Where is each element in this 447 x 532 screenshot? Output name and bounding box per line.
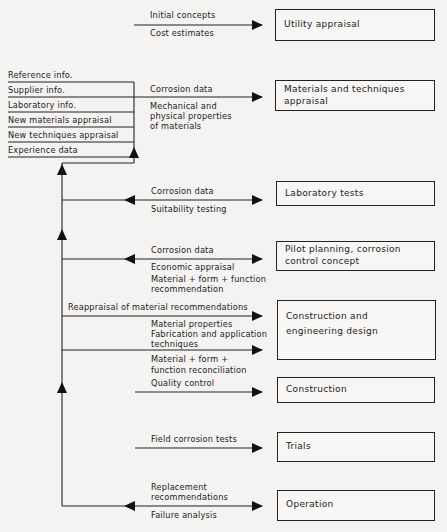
stage-label-line: appraisal bbox=[284, 94, 328, 109]
stage-label: Laboratory tests bbox=[285, 186, 364, 201]
input-label: techniques bbox=[151, 339, 198, 350]
stage-box-operation: Operation bbox=[277, 490, 435, 521]
stage-label: Utility appraisal bbox=[284, 17, 360, 32]
info-source-experience: Experience data bbox=[8, 145, 78, 156]
input-label: Cost estimates bbox=[150, 28, 214, 39]
input-label: Reappraisal of material recommendations bbox=[68, 302, 248, 313]
input-label: Corrosion data bbox=[151, 186, 214, 197]
stage-label: Operation bbox=[286, 497, 334, 512]
info-source-new-materials: New materials appraisal bbox=[8, 115, 112, 126]
input-label: recommendations bbox=[151, 492, 228, 503]
stage-label-line: control concept bbox=[285, 254, 359, 269]
input-label: Initial concepts bbox=[150, 10, 215, 21]
info-source-laboratory: Laboratory info. bbox=[8, 100, 76, 111]
stage-box-materials-appraisal: Materials and techniques appraisal bbox=[275, 80, 435, 111]
stage-box-utility-appraisal: Utility appraisal bbox=[275, 9, 435, 41]
info-source-supplier: Supplier info. bbox=[8, 85, 65, 96]
input-label: function reconciliation bbox=[151, 365, 247, 376]
stage-box-trials: Trials bbox=[277, 432, 435, 462]
input-label: Corrosion data bbox=[151, 245, 214, 256]
stage-label-line: engineering design bbox=[286, 324, 378, 339]
stage-box-laboratory-tests: Laboratory tests bbox=[276, 181, 435, 206]
input-label: recommendation bbox=[151, 284, 224, 295]
input-label: Corrosion data bbox=[150, 84, 213, 95]
input-label: Field corrosion tests bbox=[151, 434, 237, 445]
stage-label-line: Construction and bbox=[286, 309, 368, 324]
input-label: Material + form + bbox=[151, 354, 228, 365]
corrosion-flow-diagram: Reference info. Supplier info. Laborator… bbox=[0, 0, 447, 532]
stage-box-construction: Construction bbox=[277, 377, 435, 403]
stage-box-engineering-design: Construction and engineering design bbox=[277, 300, 436, 360]
input-label: of materials bbox=[150, 121, 201, 132]
input-label: Economic appraisal bbox=[151, 262, 234, 273]
stage-label: Construction bbox=[286, 382, 347, 397]
info-source-new-techniques: New techniques appraisal bbox=[8, 130, 119, 141]
input-label: Quality control bbox=[151, 378, 214, 389]
stage-label: Trials bbox=[286, 439, 311, 454]
stage-box-pilot-planning: Pilot planning, corrosion control concep… bbox=[276, 241, 435, 271]
input-label: Suitability testing bbox=[151, 204, 227, 215]
input-label: Failure analysis bbox=[151, 510, 217, 521]
info-source-reference: Reference info. bbox=[8, 70, 73, 81]
